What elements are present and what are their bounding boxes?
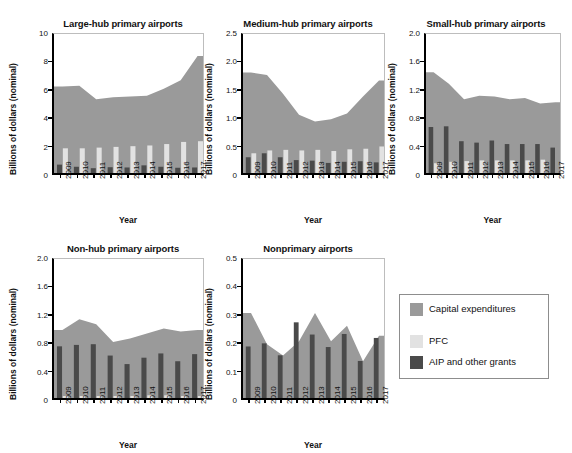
- bar-aip-2014: [326, 163, 331, 175]
- plot-area-nonprimary: [241, 258, 385, 400]
- y-tick-mark-nonprimary-2: [237, 342, 242, 344]
- bar-aip-2013: [310, 161, 315, 175]
- x-tick-mark-non-hub-1: [77, 400, 79, 403]
- x-tick-label-nonprimary-8: 2017: [381, 386, 390, 404]
- x-tick-mark-nonprimary-4: [312, 400, 314, 403]
- x-tick-mark-large-hub-3: [110, 175, 112, 178]
- x-tick-label-medium-hub-5: 2014: [333, 161, 342, 179]
- x-tick-label-non-hub-1: 2010: [81, 386, 90, 404]
- x-tick-label-non-hub-0: 2009: [64, 386, 73, 404]
- x-tick-mark-medium-hub-0: [248, 175, 250, 178]
- bar-aip-2009: [246, 346, 251, 400]
- x-tick-label-nonprimary-5: 2014: [333, 386, 342, 404]
- chart-title-nonprimary: Nonprimary airports: [213, 243, 403, 254]
- x-tick-label-medium-hub-6: 2015: [349, 161, 358, 179]
- legend-item-aip-and-other-grants[interactable]: AIP and other grants: [410, 356, 546, 369]
- bar-aip-2016: [175, 168, 180, 175]
- y-tick-label-non-hub-0: 0: [20, 396, 48, 405]
- x-tick-label-non-hub-2: 2011: [98, 387, 107, 404]
- x-tick-label-large-hub-5: 2014: [148, 161, 157, 179]
- x-tick-mark-large-hub-1: [77, 175, 79, 178]
- x-tick-label-nonprimary-7: 2016: [365, 386, 374, 404]
- plot-canvas-large-hub: [54, 34, 204, 175]
- x-tick-label-medium-hub-3: 2012: [301, 161, 310, 179]
- x-tick-label-small-hub-8: 2017: [557, 161, 566, 179]
- y-tick-mark-medium-hub-4: [237, 61, 242, 63]
- bar-aip-2016: [358, 361, 363, 400]
- x-tick-mark-large-hub-4: [127, 175, 129, 178]
- bar-aip-2013: [125, 167, 130, 175]
- x-tick-mark-small-hub-2: [461, 175, 463, 178]
- bar-aip-2017: [550, 148, 555, 175]
- legend-label-aip-and-other-grants: AIP and other grants: [429, 356, 516, 368]
- x-tick-label-non-hub-6: 2015: [165, 386, 174, 404]
- y-tick-label-nonprimary-5: 0.5: [209, 254, 237, 263]
- bar-aip-2013: [125, 364, 130, 400]
- bar-aip-2011: [91, 344, 96, 400]
- bar-aip-2009: [429, 127, 434, 175]
- legend-item-capital-expenditures[interactable]: Capital expenditures: [410, 303, 546, 316]
- legend-item-pfc[interactable]: PFC: [410, 335, 546, 348]
- y-tick-label-large-hub-3: 6: [20, 85, 48, 94]
- y-tick-mark-small-hub-3: [420, 89, 425, 91]
- plot-canvas-nonprimary: [243, 259, 385, 400]
- y-tick-mark-small-hub-4: [420, 61, 425, 63]
- bar-aip-2014: [141, 165, 146, 175]
- x-tick-label-non-hub-5: 2014: [148, 386, 157, 404]
- y-tick-mark-large-hub-4: [48, 61, 53, 63]
- bar-aip-2010: [74, 345, 79, 400]
- x-tick-label-small-hub-1: 2010: [450, 161, 459, 179]
- x-tick-mark-large-hub-6: [161, 175, 163, 178]
- bar-aip-2011: [278, 157, 283, 175]
- x-tick-label-nonprimary-6: 2015: [349, 386, 358, 404]
- bar-aip-2016: [358, 161, 363, 175]
- x-axis-label-non-hub: Year: [52, 440, 204, 450]
- plot-area-large-hub: [52, 33, 204, 175]
- x-tick-mark-non-hub-7: [178, 400, 180, 403]
- x-tick-mark-medium-hub-8: [376, 175, 378, 178]
- y-tick-label-large-hub-2: 4: [20, 114, 48, 123]
- y-tick-label-non-hub-2: 0.8: [20, 339, 48, 348]
- x-tick-label-small-hub-3: 2012: [481, 161, 490, 179]
- x-tick-label-large-hub-4: 2013: [132, 161, 141, 179]
- y-tick-label-non-hub-5: 2.0: [20, 254, 48, 263]
- y-tick-mark-small-hub-2: [420, 117, 425, 119]
- bar-aip-2016: [175, 361, 180, 400]
- x-tick-mark-medium-hub-2: [280, 175, 282, 178]
- legend-swatch-aip-and-other-grants-icon: [410, 356, 423, 369]
- bar-aip-2017: [192, 167, 197, 175]
- bar-aip-2015: [520, 144, 525, 175]
- x-tick-mark-nonprimary-2: [280, 400, 282, 403]
- bar-aip-2010: [262, 343, 267, 400]
- chart-figure: { "figure": { "yaxis_label": "Billions o…: [0, 0, 572, 453]
- y-tick-label-large-hub-4: 8: [20, 57, 48, 66]
- x-tick-mark-large-hub-5: [144, 175, 146, 178]
- x-tick-label-medium-hub-7: 2016: [365, 161, 374, 179]
- x-tick-mark-large-hub-8: [195, 175, 197, 178]
- x-tick-label-nonprimary-3: 2012: [301, 386, 310, 404]
- x-tick-mark-large-hub-2: [93, 175, 95, 178]
- x-tick-mark-nonprimary-8: [376, 400, 378, 403]
- y-tick-label-large-hub-1: 2: [20, 142, 48, 151]
- y-axis-label-large-hub: Billions of dollars (nominal): [8, 63, 18, 175]
- bar-aip-2011: [91, 168, 96, 175]
- y-tick-mark-medium-hub-2: [237, 117, 242, 119]
- x-tick-mark-non-hub-5: [144, 400, 146, 403]
- x-tick-label-medium-hub-1: 2010: [269, 161, 278, 179]
- x-tick-mark-nonprimary-3: [296, 400, 298, 403]
- y-tick-label-large-hub-0: 0: [20, 171, 48, 180]
- x-axis-label-small-hub: Year: [424, 215, 561, 225]
- x-tick-mark-non-hub-8: [195, 400, 197, 403]
- x-tick-label-medium-hub-4: 2013: [317, 161, 326, 179]
- legend-swatch-capital-expenditures-icon: [410, 303, 423, 316]
- x-tick-label-non-hub-7: 2016: [182, 386, 191, 404]
- bar-aip-2014: [505, 144, 510, 175]
- x-axis-label-medium-hub: Year: [241, 215, 385, 225]
- x-tick-mark-small-hub-4: [492, 175, 494, 178]
- bar-aip-2010: [74, 167, 79, 175]
- x-tick-mark-small-hub-7: [537, 175, 539, 178]
- y-axis-label-non-hub: Billions of dollars (nominal): [8, 288, 18, 400]
- x-tick-label-small-hub-2: 2011: [466, 162, 475, 179]
- y-tick-mark-non-hub-1: [48, 371, 53, 373]
- x-tick-label-large-hub-3: 2012: [115, 161, 124, 179]
